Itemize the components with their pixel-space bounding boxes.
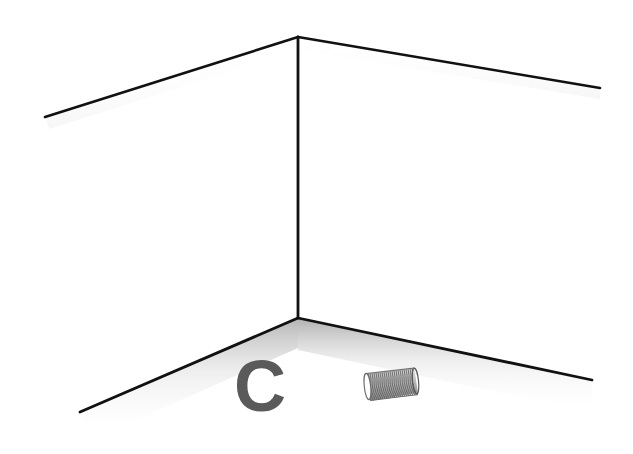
ceiling-line-right bbox=[298, 37, 600, 88]
ceiling-line-left bbox=[45, 37, 298, 117]
coil-spring-icon bbox=[362, 363, 422, 409]
floor-line-right bbox=[298, 318, 592, 380]
room-corner-scene: C bbox=[0, 0, 633, 454]
coil-spring-object bbox=[362, 363, 422, 409]
letter-c-object: C bbox=[229, 352, 291, 420]
room-outline-layer bbox=[0, 0, 633, 454]
